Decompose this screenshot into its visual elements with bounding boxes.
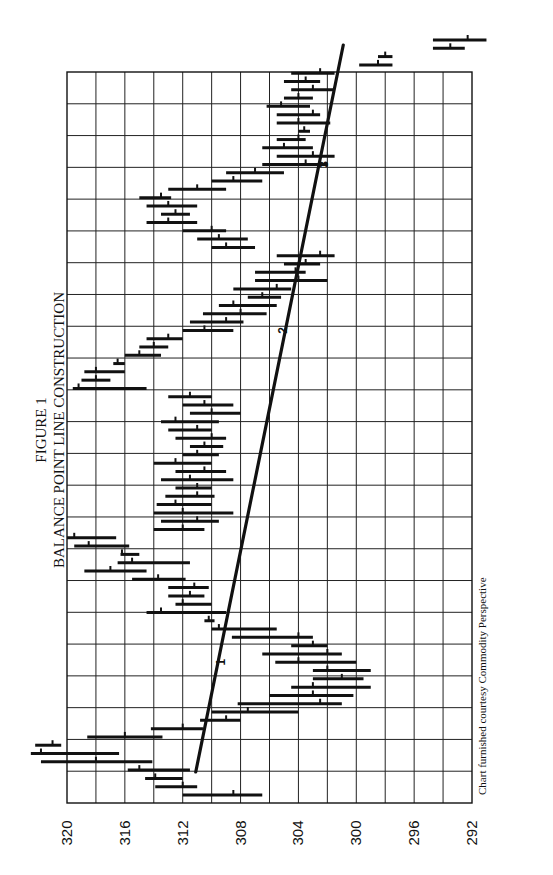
price-tick-label: 296 bbox=[405, 820, 422, 845]
price-tick-label: 300 bbox=[347, 820, 364, 845]
price-tick-label: 316 bbox=[116, 820, 133, 845]
chart-title: BALANCE POINT LINE CONSTRUCTION bbox=[51, 292, 67, 568]
balance-line-label: 1 bbox=[214, 659, 228, 666]
balance-line-label: 3 bbox=[317, 161, 331, 168]
figure-number: FIGURE 1 bbox=[33, 397, 49, 462]
balance-point-chart: 123 320316312308304300296292 FIGURE 1 BA… bbox=[0, 0, 553, 875]
price-bars bbox=[31, 35, 487, 795]
price-axis-ticks: 320316312308304300296292 bbox=[58, 820, 480, 845]
price-tick-label: 308 bbox=[232, 820, 249, 845]
price-tick-label: 304 bbox=[289, 820, 306, 845]
price-tick-label: 312 bbox=[174, 820, 191, 845]
chart-credit: Chart furnished courtesy Commodity Persp… bbox=[476, 577, 488, 795]
chart-grid bbox=[67, 72, 472, 803]
price-tick-label: 292 bbox=[463, 820, 480, 845]
price-tick-label: 320 bbox=[58, 820, 75, 845]
balance-line-label: 2 bbox=[276, 327, 290, 334]
